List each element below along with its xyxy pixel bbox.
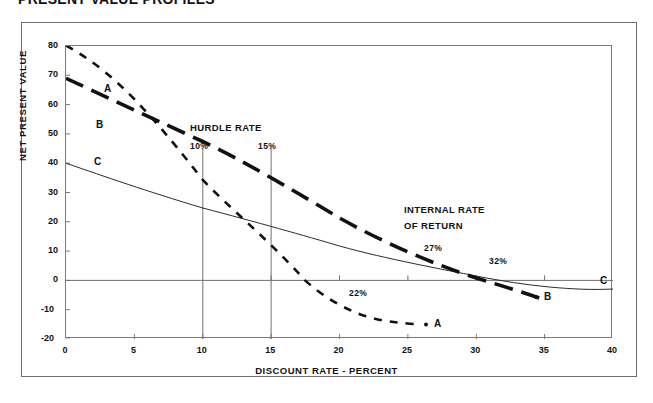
plot-area: A B C A B C (65, 45, 612, 338)
hurdle-rate-annotation: HURDLE RATE (190, 122, 262, 133)
series-label-a-right: A (434, 318, 441, 329)
x-tick-label: 10 (187, 345, 217, 355)
y-tick-label: 0 (30, 274, 58, 284)
irr-label-b-27: 27% (424, 243, 442, 253)
x-axis-title: DISCOUNT RATE - PERCENT (0, 365, 653, 376)
series-label-b-right: B (544, 291, 551, 302)
zero-line-ticks (271, 275, 544, 280)
x-tick-label: 40 (597, 345, 627, 355)
x-axis-ticks (134, 334, 544, 339)
y-tick-label: 70 (30, 69, 58, 79)
series-b-endpoint-dot (534, 295, 538, 299)
x-tick-label: 30 (460, 345, 490, 355)
hurdle-rate-10-label: 10% (190, 141, 208, 151)
chart-screenshot: PRESENT VALUE PROFILES 80 70 60 50 40 30… (0, 0, 653, 403)
series-label-c-right: C (600, 275, 607, 286)
y-tick-label: 40 (30, 157, 58, 167)
x-tick-label: 15 (255, 345, 285, 355)
chart-plot-svg (66, 46, 613, 339)
y-tick-label: -10 (26, 304, 54, 314)
series-b-line (66, 78, 545, 300)
x-tick-label: 0 (50, 345, 80, 355)
y-tick-label: 20 (30, 216, 58, 226)
y-tick-label: 30 (30, 187, 58, 197)
x-tick-label: 25 (392, 345, 422, 355)
irr-label-c-32: 32% (489, 256, 507, 266)
x-tick-label: 20 (324, 345, 354, 355)
series-a-line (66, 46, 421, 325)
irr-label-a-22: 22% (349, 288, 367, 298)
series-a-endpoint-dot (424, 323, 428, 327)
y-tick-label: 80 (30, 40, 58, 50)
x-tick-label: 35 (529, 345, 559, 355)
y-tick-label: 10 (30, 245, 58, 255)
y-axis-title: NET PRESENT VALUE (17, 16, 28, 196)
series-c-line (66, 163, 613, 289)
series-label-b-left: B (96, 119, 103, 130)
series-label-c-left: C (94, 156, 101, 167)
internal-rate-of-return-annotation-line1: INTERNAL RATE (404, 204, 485, 215)
y-tick-label: 50 (30, 128, 58, 138)
series-label-a-left: A (104, 83, 111, 94)
y-tick-label: 60 (30, 99, 58, 109)
page-title: PRESENT VALUE PROFILES (18, 0, 215, 7)
y-axis-ticks (66, 46, 70, 339)
internal-rate-of-return-annotation-line2: OF RETURN (404, 220, 463, 231)
y-tick-label: -20 (26, 333, 54, 343)
hurdle-rate-15-label: 15% (258, 141, 276, 151)
x-tick-label: 5 (118, 345, 148, 355)
